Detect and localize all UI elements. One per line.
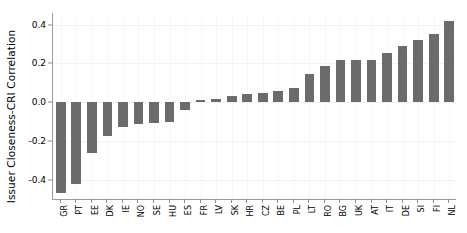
x-tick-label-be: BE (277, 205, 286, 216)
gridline-horizontal (53, 63, 456, 64)
bar-gr (56, 102, 66, 193)
x-tick-mark (448, 199, 449, 203)
x-tick-label-lt: LT (308, 205, 317, 213)
x-tick-label-dk: DK (106, 205, 115, 216)
gridline-vertical (278, 13, 279, 199)
bar-chart: Issuer Closeness-CRI Correlation 0.40.20… (0, 0, 467, 233)
bar-ee (87, 102, 97, 153)
x-tick-mark (246, 199, 247, 203)
x-tick-label-de: DE (402, 205, 411, 216)
bar-uk (351, 60, 361, 103)
gridline-vertical (216, 13, 217, 199)
x-tick-label-ee: EE (91, 205, 100, 215)
x-tick-mark (215, 199, 216, 203)
gridline-vertical (356, 13, 357, 199)
x-axis-ticks: GRPTEEDKIENOSEHUESFRLVSKHRCZBEPLLTROBGUK… (52, 199, 456, 233)
gridline-horizontal (53, 25, 456, 26)
x-tick-mark (386, 199, 387, 203)
x-tick-mark (106, 199, 107, 203)
bar-se (149, 102, 159, 123)
x-tick-label-no: NO (137, 205, 146, 217)
x-tick-mark (355, 199, 356, 203)
x-tick-label-fr: FR (200, 205, 209, 215)
bar-si (413, 40, 423, 102)
x-tick-mark (433, 199, 434, 203)
y-axis-title: Issuer Closeness-CRI Correlation (0, 0, 22, 233)
x-tick-label-ro: RO (324, 205, 333, 217)
x-tick-mark (308, 199, 309, 203)
x-tick-mark (231, 199, 232, 203)
x-tick-label-es: ES (184, 205, 193, 215)
y-tick-label: -0.4 (28, 175, 46, 185)
bar-ro (320, 66, 330, 102)
bar-dk (103, 102, 113, 136)
bar-pl (289, 88, 299, 103)
gridline-vertical (309, 13, 310, 199)
gridline-vertical (201, 13, 202, 199)
x-tick-label-pl: PL (293, 205, 302, 214)
y-tick-label: 0.0 (32, 97, 46, 107)
bar-it (382, 53, 392, 102)
bar-cz (258, 93, 268, 102)
bar-at (367, 60, 377, 103)
x-tick-label-bg: BG (339, 205, 348, 217)
bar-fi (429, 34, 439, 102)
x-tick-label-sk: SK (231, 205, 240, 215)
gridline-vertical (263, 13, 264, 199)
bar-lv (211, 99, 221, 102)
x-tick-mark (137, 199, 138, 203)
bar-nl (444, 21, 454, 102)
x-tick-mark (122, 199, 123, 203)
gridline-horizontal (53, 180, 456, 181)
x-tick-mark (153, 199, 154, 203)
plot-area (52, 13, 456, 199)
x-tick-mark (293, 199, 294, 203)
x-tick-label-cz: CZ (262, 205, 271, 216)
x-tick-label-hr: HR (246, 205, 255, 217)
x-tick-mark (402, 199, 403, 203)
gridline-vertical (232, 13, 233, 199)
x-tick-mark (339, 199, 340, 203)
x-tick-mark (262, 199, 263, 203)
bar-de (398, 46, 408, 102)
x-tick-mark (184, 199, 185, 203)
x-tick-mark (200, 199, 201, 203)
x-tick-label-gr: GR (60, 205, 69, 217)
y-axis-ticks: 0.40.20.0-0.2-0.4 (22, 0, 52, 233)
x-tick-mark (417, 199, 418, 203)
x-tick-label-pt: PT (75, 205, 84, 215)
gridline-vertical (247, 13, 248, 199)
gridline-vertical (387, 13, 388, 199)
bar-lt (305, 74, 315, 102)
y-tick-label: 0.4 (32, 20, 46, 30)
x-tick-mark (169, 199, 170, 203)
x-tick-label-hu: HU (169, 205, 178, 217)
gridline-vertical (294, 13, 295, 199)
x-tick-mark (60, 199, 61, 203)
bar-ie (118, 102, 128, 127)
y-tick-label: -0.2 (28, 136, 46, 146)
x-tick-label-ie: IE (122, 205, 131, 212)
x-tick-label-fi: FI (433, 205, 442, 212)
x-tick-mark (91, 199, 92, 203)
x-tick-label-nl: NL (448, 205, 457, 215)
gridline-vertical (340, 13, 341, 199)
gridline-horizontal (53, 102, 456, 103)
bar-hr (242, 94, 252, 102)
bar-be (273, 91, 283, 102)
x-tick-mark (277, 199, 278, 203)
x-tick-label-si: SI (417, 205, 426, 212)
bar-es (180, 102, 190, 110)
x-tick-label-uk: UK (355, 205, 364, 216)
bar-sk (227, 96, 237, 102)
x-tick-label-it: IT (386, 205, 395, 212)
gridline-vertical (403, 13, 404, 199)
x-tick-label-lv: LV (215, 205, 224, 214)
gridline-vertical (372, 13, 373, 199)
bar-no (134, 102, 144, 124)
x-tick-mark (75, 199, 76, 203)
gridline-horizontal (53, 141, 456, 142)
gridline-vertical (325, 13, 326, 199)
bar-pt (71, 102, 81, 183)
x-tick-label-se: SE (153, 205, 162, 215)
